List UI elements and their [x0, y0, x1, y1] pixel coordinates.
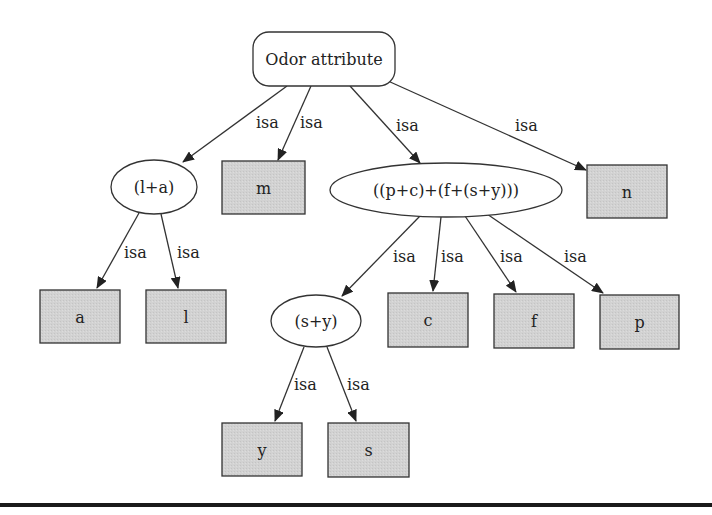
node-label: (s+y): [294, 312, 337, 331]
edge-arrow: [433, 217, 441, 291]
edge-label: isa: [441, 247, 464, 266]
edge-label: isa: [396, 116, 419, 135]
node-label: p: [634, 313, 644, 332]
node-la: (l+a): [111, 160, 197, 214]
node-label: l: [183, 308, 188, 327]
edge-label: isa: [393, 247, 416, 266]
node-l: l: [146, 290, 226, 343]
edge-root-to-m: isa: [278, 86, 323, 160]
node-label: s: [364, 441, 372, 460]
edge-label: isa: [256, 113, 279, 132]
node-c: c: [388, 293, 468, 347]
edge-la-to-l: isa: [161, 214, 200, 288]
edge-label: isa: [124, 243, 147, 262]
edge-label: isa: [294, 375, 317, 394]
node-sy: (s+y): [271, 295, 361, 347]
node-y: y: [222, 423, 302, 476]
edge-pcfsy-to-f: isa: [465, 216, 523, 292]
node-pcfsy: ((p+c)+(f+(s+y))): [330, 163, 562, 217]
edge-root-to-la: isa: [183, 86, 287, 162]
edge-label: isa: [500, 247, 523, 266]
node-f: f: [494, 294, 574, 348]
node-a: a: [40, 290, 120, 343]
edge-label: isa: [300, 113, 323, 132]
node-s: s: [328, 423, 409, 477]
node-p: p: [600, 295, 679, 349]
node-label: n: [622, 183, 632, 202]
node-root: Odor attribute: [253, 32, 395, 86]
node-label: m: [256, 179, 271, 198]
isa-hierarchy-diagram: isaisaisaisaisaisaisaisaisaisaisaisa Odo…: [0, 0, 712, 515]
node-n: n: [587, 165, 667, 218]
edges-layer: isaisaisaisaisaisaisaisaisaisaisaisa: [97, 81, 603, 421]
edge-label: isa: [515, 116, 538, 135]
node-label: c: [424, 311, 433, 330]
edge-sy-to-s: isa: [327, 347, 370, 421]
edge-label: isa: [347, 375, 370, 394]
edge-label: isa: [564, 247, 587, 266]
node-label: a: [75, 308, 85, 327]
edge-root-to-pcfsy: isa: [350, 86, 420, 163]
edge-pcfsy-to-sy: isa: [342, 216, 420, 296]
bottom-rule-divider: [0, 503, 712, 507]
node-label: Odor attribute: [265, 50, 382, 69]
node-label: y: [256, 441, 266, 460]
edge-label: isa: [177, 243, 200, 262]
edge-pcfsy-to-c: isa: [433, 217, 464, 291]
edge-la-to-a: isa: [97, 213, 147, 288]
node-m: m: [222, 161, 305, 214]
edge-arrow: [161, 214, 178, 288]
node-label: ((p+c)+(f+(s+y))): [373, 181, 519, 200]
edge-sy-to-y: isa: [275, 347, 317, 421]
node-label: (l+a): [134, 178, 175, 197]
